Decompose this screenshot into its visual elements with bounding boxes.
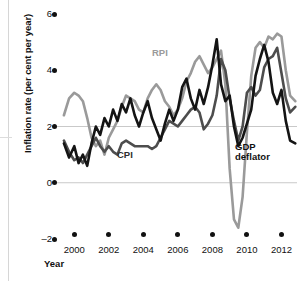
x-tick-label-2002: 2002 [92, 244, 126, 255]
page-edge-rule-horizontal [0, 137, 12, 138]
series-label-cpi: CPI [117, 150, 133, 160]
y-tick-label--2: –2 [36, 234, 52, 244]
y-tick-label-0: 0 [36, 178, 52, 188]
page-edge-rule [8, 0, 9, 281]
y-tick-label-6: 6 [36, 9, 52, 19]
y-axis-tick-labels: 6420–2 [32, 0, 52, 281]
x-tick-label-2006: 2006 [161, 244, 195, 255]
x-tick-label-2008: 2008 [195, 244, 229, 255]
y-tick-label-2: 2 [36, 122, 52, 132]
x-tick-label-2000: 2000 [57, 244, 91, 255]
series-label-rpi: RPI [152, 48, 168, 58]
chart-figure: Inflation rate (per cent per year) 6420–… [0, 0, 297, 281]
x-tick-label-2010: 2010 [230, 244, 264, 255]
plot-area [57, 14, 297, 239]
y-axis-title: Inflation rate (per cent per year) [22, 0, 33, 169]
x-tick-label-2012: 2012 [264, 244, 297, 255]
plot-svg [57, 14, 297, 239]
x-tick-dot-2012 [279, 232, 284, 237]
x-tick-dot-2000 [72, 232, 77, 237]
x-tick-dot-2004 [141, 232, 146, 237]
gdp-line-2: deflator [235, 151, 270, 162]
y-tick-label-4: 4 [36, 65, 52, 75]
x-tick-dot-2008 [210, 232, 215, 237]
series-lines [64, 34, 295, 228]
x-tick-label-2004: 2004 [126, 244, 160, 255]
x-axis-title: Year [44, 258, 64, 269]
series-label-gdp-deflator: GDPdeflator [235, 142, 270, 163]
